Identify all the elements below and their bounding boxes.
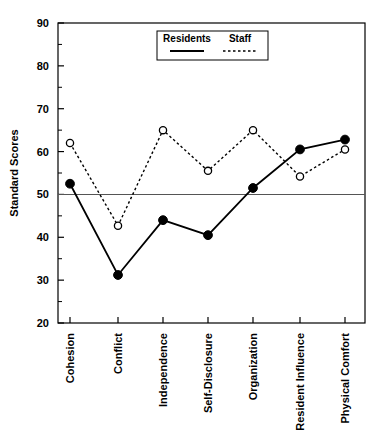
data-point-residents [204, 231, 213, 240]
data-point-staff [114, 222, 121, 229]
x-axis-category-label: Physical Comfort [339, 333, 351, 424]
data-point-residents [159, 216, 168, 225]
y-axis-tick-label: 90 [37, 17, 49, 29]
line-chart-svg: 2030405060708090CohesionConflictIndepend… [0, 0, 377, 430]
y-axis-tick-label: 70 [37, 103, 49, 115]
data-point-staff [159, 127, 166, 134]
y-axis-title: Standard Scores [8, 129, 20, 216]
x-axis-category-label: Self-Disclosure [202, 333, 214, 413]
legend-label-residents: Residents [163, 33, 211, 44]
data-point-residents [296, 145, 305, 154]
data-point-residents [114, 271, 123, 280]
y-axis-tick-label: 20 [37, 317, 49, 329]
data-point-residents [249, 184, 258, 193]
x-axis-category-label: Cohesion [64, 333, 76, 383]
data-point-staff [341, 146, 348, 153]
legend-label-staff: Staff [229, 33, 252, 44]
data-point-residents [66, 179, 75, 188]
data-point-staff [249, 127, 256, 134]
y-axis-tick-label: 40 [37, 231, 49, 243]
x-axis-category-label: Independence [157, 333, 169, 407]
x-axis-category-label: Organization [247, 333, 259, 401]
y-axis-tick-label: 30 [37, 274, 49, 286]
data-point-staff [204, 167, 211, 174]
y-axis-tick-label: 60 [37, 146, 49, 158]
data-point-residents [341, 135, 350, 144]
data-point-staff [66, 139, 73, 146]
y-axis-tick-label: 50 [37, 188, 49, 200]
chart-figure: 2030405060708090CohesionConflictIndepend… [0, 0, 377, 430]
data-point-staff [296, 173, 303, 180]
x-axis-category-label: Resident Influence [294, 333, 306, 430]
x-axis-category-label: Conflict [112, 333, 124, 374]
y-axis-tick-label: 80 [37, 60, 49, 72]
